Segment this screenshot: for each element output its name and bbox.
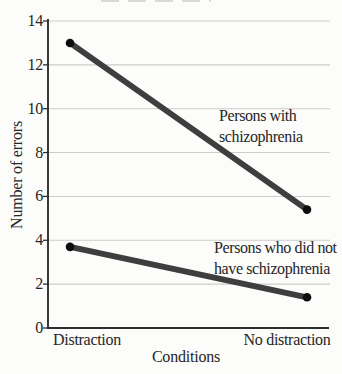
figure-line-chart: 02468101214 Number of errors Distraction… [0,0,342,374]
series-label-no-schizophrenia: Persons who did not have schizophrenia [214,238,337,279]
line-chart-canvas [0,0,342,374]
series-label-schizophrenia: Persons with schizophrenia [219,106,303,147]
x-category-no-distraction: No distraction [244,330,331,350]
y-tick-label-2: 2 [0,274,43,294]
data-point-s0-1 [303,205,312,214]
annotation-line: Persons with [219,107,296,124]
data-point-s0-0 [66,39,75,48]
annotation-line: schizophrenia [219,128,303,145]
x-category-distraction: Distraction [53,330,121,350]
y-tick-label-14: 14 [0,11,43,31]
data-point-s1-1 [303,293,312,302]
data-point-s1-0 [66,243,75,252]
annotation-line: Persons who did not [214,239,337,256]
y-axis-title: Number of errors [7,115,27,235]
y-tick-label-0: 0 [0,318,43,338]
x-axis-title: Conditions [152,347,220,367]
annotation-line: have schizophrenia [214,260,330,277]
y-tick-label-12: 12 [0,55,43,75]
